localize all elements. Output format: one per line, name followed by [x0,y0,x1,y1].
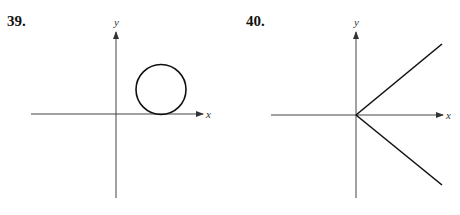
circle-curve-39 [136,65,186,115]
upper-ray-40 [356,44,442,115]
axes-39 [31,32,203,198]
graphs-canvas [0,0,460,215]
lower-ray-40 [356,115,442,185]
